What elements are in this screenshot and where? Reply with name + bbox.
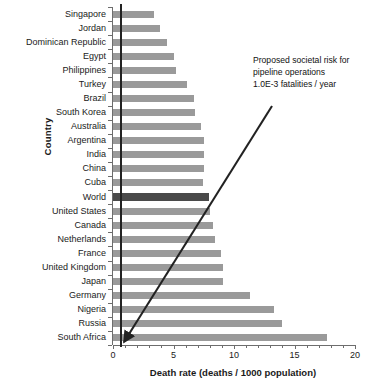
y-axis-tick [108, 7, 112, 8]
bar-row [113, 289, 355, 303]
y-axis-tick-label: South Africa [6, 331, 110, 345]
bar [113, 193, 209, 201]
y-axis-tick-label: Russia [6, 317, 110, 331]
bar [113, 250, 221, 257]
y-axis-tick [108, 261, 112, 262]
y-axis-tick [108, 246, 112, 247]
bar [113, 236, 215, 243]
y-axis-tick [108, 35, 112, 36]
bar [113, 292, 250, 299]
y-axis-tick-label: Cuba [6, 176, 110, 190]
y-axis-tick-label: Netherlands [6, 232, 110, 246]
bar-row [113, 218, 355, 232]
y-axis-tick-label: India [6, 148, 110, 162]
x-axis-minor-tick [137, 345, 138, 348]
y-axis-category-labels: Singapore Jordan Dominican Republic Egyp… [6, 7, 110, 345]
x-axis-major-tick [234, 345, 235, 349]
y-axis-tick-label: Argentina [6, 134, 110, 148]
y-axis-tick-label: Brazil [6, 91, 110, 105]
y-axis-tick-label: Nigeria [6, 303, 110, 317]
y-axis-tick-label: Dominican Republic [6, 35, 110, 49]
x-axis-tick-label: 10 [222, 350, 246, 360]
bar [113, 306, 274, 313]
x-axis-major-tick [355, 345, 356, 349]
x-axis-minor-tick [198, 345, 199, 348]
y-axis-tick-label: United Kingdom [6, 260, 110, 274]
bar [113, 179, 203, 186]
x-axis-tick-label: 15 [283, 350, 307, 360]
bar [113, 81, 187, 88]
y-axis-tick [108, 303, 112, 304]
x-axis-minor-tick [282, 345, 283, 348]
y-axis-tick [108, 77, 112, 78]
y-axis-tick [108, 148, 112, 149]
bar-row [113, 274, 355, 288]
y-axis-tick [108, 21, 112, 22]
bar [113, 334, 327, 341]
bar-row [113, 35, 355, 49]
y-axis-tick-label: Jordan [6, 21, 110, 35]
x-axis-minor-tick [331, 345, 332, 348]
y-axis-line [112, 7, 113, 345]
y-axis-tick-label: France [6, 246, 110, 260]
x-axis-minor-tick [343, 345, 344, 348]
death-rate-bar-chart: Country Singapore Jordan Dominican Repub… [0, 0, 373, 388]
bar-row [113, 246, 355, 260]
y-axis-tick-label: Egypt [6, 49, 110, 63]
bar [113, 264, 223, 271]
bar [113, 95, 194, 102]
bar [113, 11, 154, 18]
x-axis-minor-tick [319, 345, 320, 348]
bar-row [113, 134, 355, 148]
y-axis-tick [108, 275, 112, 276]
y-axis-tick [108, 190, 112, 191]
x-axis-major-tick [295, 345, 296, 349]
y-axis-tick-label: Canada [6, 218, 110, 232]
annotation-line: 1.0E-3 fatalities / year [253, 78, 373, 90]
x-axis-minor-tick [270, 345, 271, 348]
bar [113, 278, 223, 285]
bar-row [113, 317, 355, 331]
y-axis-tick [108, 120, 112, 121]
y-axis-tick [108, 232, 112, 233]
y-axis-tick [108, 317, 112, 318]
y-axis-tick-label: Philippines [6, 63, 110, 77]
y-axis-tick [108, 176, 112, 177]
bar-row [113, 120, 355, 134]
bar [113, 137, 204, 144]
y-axis-tick [108, 345, 112, 346]
bar-row [113, 7, 355, 21]
y-axis-tick-label: Australia [6, 120, 110, 134]
bar-row [113, 148, 355, 162]
bar-row [113, 106, 355, 120]
y-axis-tick [108, 49, 112, 50]
bar [113, 165, 204, 172]
bar-row [113, 91, 355, 105]
x-axis-minor-tick [307, 345, 308, 348]
x-axis-minor-tick [246, 345, 247, 348]
y-axis-tick [108, 106, 112, 107]
x-axis-tick-label: 0 [101, 350, 125, 360]
y-axis-tick [108, 218, 112, 219]
x-axis-minor-tick [210, 345, 211, 348]
bar [113, 208, 210, 215]
x-axis-minor-tick [258, 345, 259, 348]
bar-row [113, 260, 355, 274]
bar-row [113, 331, 355, 345]
y-axis-tick-label: China [6, 162, 110, 176]
bar [113, 53, 174, 60]
bar-row [113, 303, 355, 317]
bar-row [113, 162, 355, 176]
x-axis-minor-tick [161, 345, 162, 348]
bar [113, 123, 201, 130]
y-axis-tick-label: South Korea [6, 106, 110, 120]
bar [113, 320, 282, 327]
x-axis-major-tick [113, 345, 114, 349]
bar [113, 67, 176, 74]
annotation-line: Proposed societal risk for [253, 54, 373, 66]
y-axis-tick-label: Germany [6, 289, 110, 303]
y-axis-tick-label: United States [6, 204, 110, 218]
bar-row [113, 232, 355, 246]
x-axis-minor-tick [222, 345, 223, 348]
x-axis-minor-tick [186, 345, 187, 348]
